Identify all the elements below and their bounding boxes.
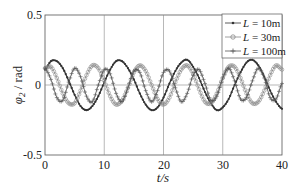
svg-text:L = 10m: L = 10m [242,17,281,29]
svg-text:L = 100m: L = 100m [242,45,286,57]
line-chart: 0.5 0 -0.5 0 10 20 30 40 t/s φ2 / rad L … [0,0,301,187]
y-tick-neg0.5: -0.5 [23,148,42,162]
x-tick-0: 0 [42,158,48,172]
y-axis-label-main: φ [10,97,25,104]
y-tick-0: 0 [35,78,41,92]
svg-text:φ2 / rad: φ2 / rad [10,65,27,104]
x-axis-label: t/s [157,170,169,185]
x-tick-30: 30 [217,158,229,172]
y-axis-label: φ2 / rad [10,65,27,104]
dot-marker-icon [232,22,235,25]
y-tick-0.5: 0.5 [27,8,42,22]
svg-text:L = 30m: L = 30m [242,31,281,43]
y-axis-label-unit: / rad [10,65,25,92]
x-tick-40: 40 [276,158,288,172]
x-tick-10: 10 [98,158,110,172]
legend: L = 10m L = 30m L = 100m [222,14,286,58]
